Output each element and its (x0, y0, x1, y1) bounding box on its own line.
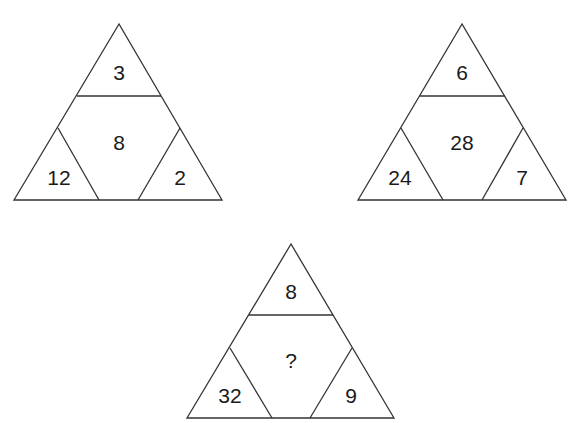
triangle-1 (14, 24, 222, 200)
triangle-3-top-value: 8 (285, 280, 297, 304)
triangle-2-center-value: 28 (450, 131, 473, 155)
triangle-2-right-value: 7 (516, 166, 528, 190)
triangle-2-left-value: 24 (388, 166, 411, 190)
triangle-2-top-value: 6 (456, 61, 468, 85)
triangle-1-right-value: 2 (174, 166, 186, 190)
triangle-3-right-value: 9 (345, 384, 357, 408)
triangle-3-left-value: 32 (218, 384, 241, 408)
triangle-1-center-value: 8 (113, 131, 125, 155)
triangle-1-top-value: 3 (113, 61, 125, 85)
triangle-1-left-value: 12 (47, 166, 70, 190)
triangle-3-center-unknown: ? (285, 349, 297, 373)
